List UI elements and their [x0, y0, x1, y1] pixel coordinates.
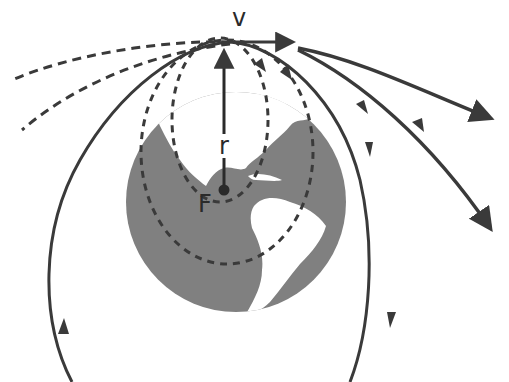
orbit-arrow-left-icon	[58, 318, 69, 334]
velocity-label: v	[232, 6, 246, 30]
inner-orbit-arrow-icon	[254, 58, 266, 72]
radius-label: r	[218, 134, 230, 158]
orbit-arrow-right-icon	[365, 142, 373, 157]
escape-mid-arrow-2-icon	[356, 100, 368, 114]
orbit-arrow-right-lower-icon	[387, 312, 396, 328]
focus-point	[219, 185, 230, 196]
orbit-diagram	[0, 0, 509, 382]
earth-globe	[126, 81, 346, 314]
escape-mid-arrow-icon	[412, 118, 424, 132]
left-dashed-upper	[12, 42, 230, 80]
focus-label: F	[198, 192, 212, 216]
